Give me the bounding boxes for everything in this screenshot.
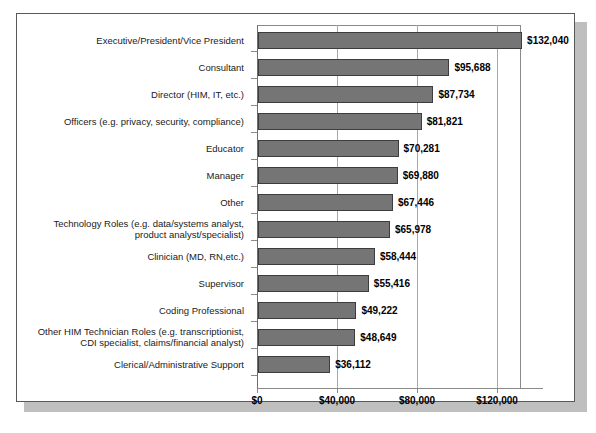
- category-label: Consultant: [29, 62, 244, 73]
- category-axis-tick: [251, 159, 257, 160]
- plot-right-border: [520, 25, 521, 389]
- plot-top-border: [257, 25, 521, 26]
- category-axis-tick: [251, 321, 257, 322]
- category-axis-tick: [251, 132, 257, 133]
- bar: [258, 167, 398, 184]
- x-axis-tick-label: $120,000: [476, 395, 518, 406]
- bar: [258, 275, 369, 292]
- bar-value-label: $70,281: [404, 143, 440, 154]
- bar: [258, 194, 393, 211]
- bar-value-label: $58,444: [380, 251, 416, 262]
- category-label: Technology Roles (e.g. data/systems anal…: [29, 218, 244, 240]
- category-axis-tick: [251, 375, 257, 376]
- x-axis-tick-label: $0: [251, 395, 262, 406]
- category-axis-line: [257, 388, 543, 389]
- category-label: Officers (e.g. privacy, security, compli…: [29, 116, 244, 127]
- category-label: Manager: [29, 170, 244, 181]
- x-axis-tick: [257, 388, 258, 393]
- bar-value-label: $36,112: [335, 359, 371, 370]
- bar: [258, 356, 330, 373]
- chart-figure-card: $0$40,000$80,000$120,000 Executive/Presi…: [16, 13, 575, 402]
- category-label: Executive/President/Vice President: [29, 35, 244, 46]
- gridline: [497, 25, 498, 389]
- bar: [258, 248, 375, 265]
- x-axis-tick-label: $40,000: [319, 395, 355, 406]
- x-axis-tick: [337, 388, 338, 393]
- category-axis-tick: [251, 348, 257, 349]
- x-axis-tick-label: $80,000: [399, 395, 435, 406]
- category-label: Educator: [29, 143, 244, 154]
- category-label: Director (HIM, IT, etc.): [29, 89, 244, 100]
- category-axis-tick: [251, 186, 257, 187]
- category-axis-tick: [251, 213, 257, 214]
- category-label: Clinician (MD, RN,etc.): [29, 251, 244, 262]
- bar: [258, 140, 399, 157]
- category-axis-tick: [251, 267, 257, 268]
- x-axis-tick: [497, 388, 498, 393]
- bar-value-label: $49,222: [361, 305, 397, 316]
- bar: [258, 329, 355, 346]
- x-axis-tick: [417, 388, 418, 393]
- category-axis-tick: [251, 78, 257, 79]
- category-axis-tick: [251, 294, 257, 295]
- bar: [258, 59, 449, 76]
- bar-value-label: $95,688: [454, 62, 490, 73]
- category-label: Supervisor: [29, 278, 244, 289]
- category-axis-tick: [251, 240, 257, 241]
- bar-chart: $0$40,000$80,000$120,000 Executive/Presi…: [17, 14, 574, 401]
- category-label: Clerical/Administrative Support: [29, 359, 244, 370]
- bar-value-label: $132,040: [527, 35, 569, 46]
- category-axis-tick: [251, 105, 257, 106]
- bar-value-label: $69,880: [403, 170, 439, 181]
- category-label: Coding Professional: [29, 305, 244, 316]
- category-label: Other HIM Technician Roles (e.g. transcr…: [29, 326, 244, 348]
- bar-value-label: $55,416: [374, 278, 410, 289]
- bar-value-label: $65,978: [395, 224, 431, 235]
- bar-value-label: $81,821: [427, 116, 463, 127]
- bar: [258, 32, 522, 49]
- category-axis-tick: [251, 51, 257, 52]
- bar: [258, 86, 433, 103]
- bar-value-label: $67,446: [398, 197, 434, 208]
- bar: [258, 221, 390, 238]
- bar-value-label: $48,649: [360, 332, 396, 343]
- category-label: Other: [29, 197, 244, 208]
- bar: [258, 113, 422, 130]
- bar: [258, 302, 356, 319]
- bar-value-label: $87,734: [438, 89, 474, 100]
